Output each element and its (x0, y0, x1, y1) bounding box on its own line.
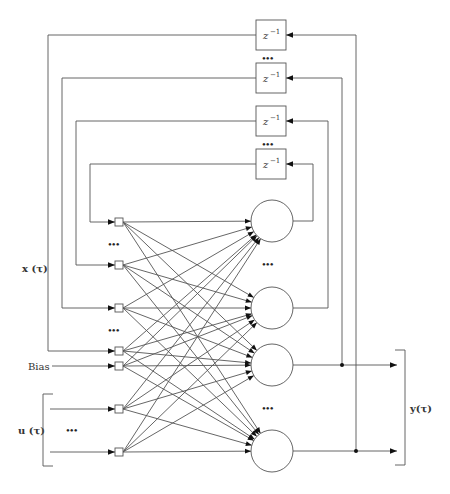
delay-label: z (262, 30, 269, 41)
neuron-4 (251, 430, 293, 472)
delay-units: z−1z−1z−1z−1 (256, 20, 286, 179)
neuron-1 (251, 200, 293, 242)
feedback-return-line (62, 78, 256, 308)
input-nodes (50, 218, 123, 456)
input-node-x-3 (115, 304, 123, 312)
state-input-label: x (τ) (22, 263, 48, 274)
input-node-u-2 (115, 448, 123, 456)
neuron-3 (251, 344, 293, 386)
weight-connection (123, 237, 259, 409)
input-node-x-4 (115, 347, 123, 355)
feedback-return-line (76, 121, 256, 265)
delay-label: z (262, 159, 269, 170)
weight-connection (123, 323, 257, 452)
delay-label: z (262, 116, 269, 127)
weight-connection (123, 236, 257, 366)
external-input-label: u (τ) (18, 425, 45, 436)
delay-exponent: −1 (270, 28, 280, 36)
neurons (251, 200, 293, 472)
rnn-diagram: z−1z−1z−1z−1 ••• ••• ••• ••• ••• ••• •••… (0, 0, 450, 494)
delay-ellipsis-bottom: ••• (262, 138, 274, 150)
output-bracket (395, 350, 405, 465)
delay-exponent: −1 (270, 157, 280, 165)
delay-unit: z−1 (256, 20, 286, 50)
input-node-x-2 (115, 261, 123, 269)
weight-connection (123, 308, 257, 436)
delay-exponent: −1 (270, 114, 280, 122)
input-node-u-1 (115, 405, 123, 413)
delay-exponent: −1 (270, 71, 280, 79)
external-input-ellipsis: ••• (66, 424, 78, 436)
delay-unit: z−1 (256, 63, 286, 93)
feedback-riser-line (286, 35, 356, 451)
state-input-ellipsis-bottom: ••• (108, 324, 120, 336)
output-junction-dot (354, 449, 358, 453)
neuron-2 (251, 287, 293, 329)
weight-connection (123, 265, 259, 435)
weight-connection (123, 221, 251, 222)
output-junction-dot (340, 363, 344, 367)
input-node-bias (115, 362, 123, 370)
feedback-return-line (48, 35, 256, 351)
output-label: y(τ) (409, 403, 432, 414)
input-node-x-1 (115, 218, 123, 226)
delay-unit: z−1 (256, 149, 286, 179)
weight-connection (123, 222, 254, 298)
feedback-return-line (90, 164, 256, 222)
state-input-ellipsis-top: ••• (108, 238, 120, 250)
weight-connection (123, 232, 254, 308)
weight-connection (123, 451, 251, 452)
delay-unit: z−1 (256, 106, 286, 136)
output-lines (293, 363, 397, 453)
weight-connection (123, 316, 252, 366)
neuron-ellipsis-top: ••• (262, 258, 274, 270)
feedback-lines (48, 35, 356, 451)
delay-ellipsis-top: ••• (262, 52, 274, 64)
weight-connections (123, 221, 261, 452)
delay-label: z (262, 73, 269, 84)
bias-label: Bias (28, 361, 50, 372)
neuron-ellipsis-bottom: ••• (262, 402, 274, 414)
